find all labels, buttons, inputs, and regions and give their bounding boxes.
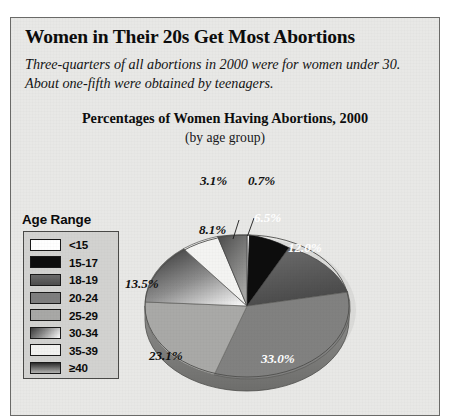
pie-label-30-34: 13.5%	[125, 276, 159, 292]
pie-label-20-24: 33.0%	[261, 351, 295, 367]
pie-label-under15: 0.7%	[248, 173, 275, 189]
pie-label-15-17: 6.5%	[254, 210, 281, 226]
pie-label-40plus: 3.1%	[200, 173, 227, 189]
figure-panel: Women in Their 20s Get Most Abortions Th…	[10, 17, 440, 416]
pie-label-18-19: 12.0%	[288, 240, 322, 256]
pie-label-35-39: 8.1%	[199, 222, 226, 238]
pie-chart: 3.1% 0.7% 6.5% 12.0% 33.0% 23.1% 13.5% 8…	[11, 18, 440, 416]
pie-label-25-29: 23.1%	[149, 348, 183, 364]
pie-chart-svg	[11, 18, 440, 416]
